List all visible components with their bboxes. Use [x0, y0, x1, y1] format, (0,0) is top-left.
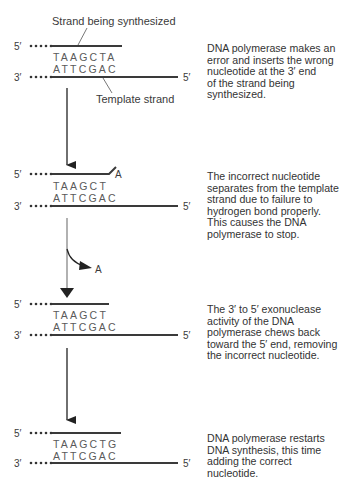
top-sequence: TAAGCTA — [53, 51, 116, 63]
dots-bottom — [30, 334, 53, 337]
step-3-duplex: 5′ TAAGCT ATTCGAC 3′ 5′ — [14, 299, 191, 341]
dots-bottom — [30, 205, 53, 208]
dots-top — [30, 45, 53, 48]
step-2-description: The incorrect nucleotide separates from … — [207, 171, 347, 241]
synthesized-strand-kinked — [52, 167, 116, 174]
dots-bottom — [30, 462, 53, 465]
removed-nucleotide-label: A — [95, 264, 102, 275]
branch-arrowhead — [79, 261, 92, 270]
three-prime-label: 3′ — [14, 72, 22, 83]
step-1-duplex: Strand being synthesized 5′ TAAGCTA ATTC… — [14, 15, 191, 105]
three-prime-label: 3′ — [14, 458, 22, 469]
dots-top — [30, 173, 53, 176]
five-prime-label: 5′ — [14, 299, 22, 310]
arrowhead-2 — [60, 288, 74, 298]
top-sequence: TAAGCTG — [53, 438, 118, 450]
five-prime-label: 5′ — [14, 41, 22, 52]
excision-arrow: A — [60, 218, 102, 298]
bottom-sequence: ATTCGAC — [53, 450, 118, 462]
five-prime-label-right: 5′ — [183, 330, 191, 341]
strand-being-synthesized-label: Strand being synthesized — [52, 15, 176, 27]
five-prime-label-right: 5′ — [183, 201, 191, 212]
bottom-sequence: ATTCGAC — [53, 321, 118, 333]
mismatched-nucleotide: A — [115, 169, 122, 180]
five-prime-label: 5′ — [14, 428, 22, 439]
step-2-duplex: 5′ A TAAGCT ATTCGAC 3′ 5′ — [14, 167, 191, 212]
five-prime-label: 5′ — [14, 169, 22, 180]
step-1-description: DNA polymerase makes an error and insert… — [207, 43, 347, 101]
template-strand-label: Template strand — [96, 93, 174, 105]
top-sequence: TAAGCT — [53, 309, 108, 321]
leader-line-template — [103, 78, 112, 93]
step-3-description: The 3′ to 5′ exonuclease activity of the… — [207, 304, 347, 362]
dots-bottom — [30, 76, 53, 79]
five-prime-label-right: 5′ — [183, 458, 191, 469]
step-4-duplex: 5′ TAAGCTG ATTCGAC 3′ 5′ — [14, 428, 191, 469]
three-prime-label: 3′ — [14, 330, 22, 341]
five-prime-label-right: 5′ — [183, 72, 191, 83]
bottom-sequence: ATTCGAC — [53, 63, 118, 75]
top-sequence: TAAGCT — [53, 180, 108, 192]
bottom-sequence: ATTCGAC — [53, 192, 118, 204]
dots-top — [30, 432, 53, 435]
step-4-description: DNA polymerase restarts DNA synthesis, t… — [207, 433, 347, 479]
dots-top — [30, 303, 53, 306]
three-prime-label: 3′ — [14, 201, 22, 212]
leader-line-synthesized — [78, 28, 87, 45]
